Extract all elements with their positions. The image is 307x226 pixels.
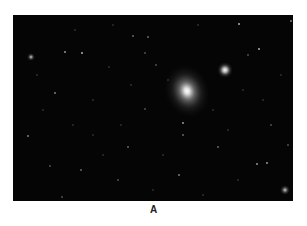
star: [182, 134, 185, 137]
star: [102, 154, 104, 156]
star: [162, 154, 164, 156]
star-field: [27, 20, 293, 199]
star: [242, 89, 244, 91]
star: [266, 162, 269, 165]
star: [197, 24, 199, 26]
star: [72, 124, 74, 126]
star: [178, 174, 181, 177]
main-galaxy: [157, 58, 217, 124]
star: [132, 35, 135, 38]
figure-caption: A: [0, 204, 307, 215]
star: [144, 108, 146, 110]
star: [237, 22, 240, 25]
star: [27, 135, 30, 138]
star: [217, 146, 220, 149]
star: [287, 144, 289, 146]
star: [127, 146, 130, 149]
star: [49, 165, 51, 167]
star: [117, 179, 119, 181]
star: [54, 92, 57, 95]
star: [280, 74, 282, 76]
star: [61, 196, 63, 198]
star: [147, 36, 150, 39]
star: [227, 129, 229, 131]
star: [155, 64, 157, 66]
galaxy-image: [13, 15, 293, 201]
star: [130, 84, 132, 86]
star: [80, 169, 83, 172]
star: [112, 24, 114, 26]
star: [202, 194, 204, 196]
star: [152, 189, 154, 191]
star: [270, 124, 272, 126]
star: [64, 51, 67, 54]
sky-field: [13, 15, 293, 201]
star: [144, 52, 146, 54]
star: [262, 99, 264, 101]
star: [36, 74, 38, 76]
star: [237, 179, 239, 181]
corner-galaxy: [280, 185, 290, 195]
star: [120, 124, 122, 126]
star: [42, 109, 44, 111]
star: [92, 99, 94, 101]
star: [290, 20, 293, 23]
star: [257, 47, 260, 50]
star: [92, 134, 94, 136]
star: [80, 51, 83, 54]
left-galaxy: [27, 53, 35, 61]
star: [108, 66, 110, 68]
star: [247, 54, 249, 56]
figure: A: [0, 0, 307, 226]
star: [256, 163, 259, 166]
companion-galaxy: [217, 62, 233, 78]
star: [74, 29, 76, 31]
star: [212, 109, 214, 111]
star: [182, 122, 185, 125]
